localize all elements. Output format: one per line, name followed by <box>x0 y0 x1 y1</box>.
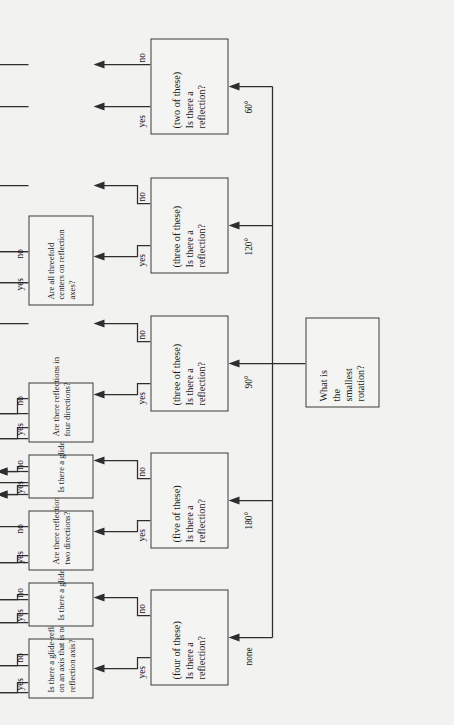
question-line-0: Are there reflections in <box>50 516 61 564</box>
reflection-q-line-1: Is there a <box>183 595 195 679</box>
reflection-q-line-2: reflection? <box>195 458 207 542</box>
reflection-count-label: (four of these) <box>170 595 182 679</box>
yes-label-threefold: yes <box>14 278 24 291</box>
reflection-q-line-1: Is there a <box>183 321 195 405</box>
reflection-q-line-2: reflection? <box>195 595 207 679</box>
question-reflections-two-directions: Are there reflections in two directions? <box>28 510 93 570</box>
flowchart-page: What is the smallest rotation? none 180°… <box>0 0 454 725</box>
yes-label-two-dirs: yes <box>14 551 24 564</box>
yes-label-four-dirs: yes <box>14 423 24 436</box>
flowchart-canvas: What is the smallest rotation? none 180°… <box>0 0 454 725</box>
start-line-0: What is <box>317 323 329 401</box>
branch-label-90: 90° <box>243 375 253 388</box>
yes-label-180: yes <box>136 529 146 542</box>
start-line-2: smallest <box>342 323 354 401</box>
no-label-none: no <box>136 604 146 613</box>
reflection-count-label: (three of these) <box>170 321 182 405</box>
reflection-question-180: (five of these) Is there a reflection? <box>150 452 228 548</box>
question-line-1: centers on reflection <box>55 221 66 299</box>
yes-label-glide-2: yes <box>14 481 24 494</box>
branch-label-60: 60° <box>243 100 253 113</box>
question-glide-reflection-1: Is there a glide-reflection? <box>28 582 93 626</box>
reflection-question-120: (three of these) Is there a reflection? <box>150 177 228 273</box>
branch-label-180: 180° <box>243 511 253 529</box>
no-label-glide-1: no <box>14 588 24 597</box>
yes-label-90: yes <box>136 392 146 405</box>
yes-label-60: yes <box>136 115 146 128</box>
no-label-180: no <box>136 467 146 476</box>
question-glide-not-reflection-axis: Is there a glide-reflection on an axis t… <box>28 638 93 698</box>
start-line-1: the <box>330 323 342 401</box>
question-line-1: four directions? <box>61 388 72 436</box>
no-label-120: no <box>136 192 146 201</box>
reflection-count-label: (five of these) <box>170 458 182 542</box>
reflection-count-label: (three of these) <box>170 183 182 267</box>
yes-label-glide-not-reflection: yes <box>14 678 24 691</box>
question-line-0: Is there a glide-reflection? <box>55 460 66 492</box>
reflection-q-line-2: reflection? <box>195 183 207 267</box>
question-reflections-four-directions: Are there reflections in four directions… <box>28 382 93 442</box>
reflection-q-line-2: reflection? <box>195 321 207 405</box>
yes-label-120: yes <box>136 254 146 267</box>
reflection-count-label: (two of these) <box>170 44 182 128</box>
start-box: What is the smallest rotation? <box>305 317 379 407</box>
reflection-q-line-1: Is there a <box>183 44 195 128</box>
no-label-two-dirs: no <box>14 524 24 533</box>
no-label-glide-not-reflection: no <box>14 653 24 662</box>
no-label-60: no <box>136 53 146 62</box>
question-line-2: reflection axis? <box>66 644 77 692</box>
reflection-q-line-1: Is there a <box>183 458 195 542</box>
question-line-2: axes? <box>66 221 77 299</box>
reflection-q-line-2: reflection? <box>195 44 207 128</box>
question-line-1: on an axis that is not a <box>55 644 66 692</box>
question-line-0: Is there a glide-reflection? <box>55 588 66 620</box>
question-line-0: Are there reflections in <box>50 388 61 436</box>
reflection-question-none: (four of these) Is there a reflection? <box>150 589 228 685</box>
reflection-question-60: (two of these) Is there a reflection? <box>150 38 228 134</box>
question-line-0: Is there a glide-reflection <box>45 644 56 692</box>
no-label-four-dirs: no <box>14 396 24 405</box>
question-glide-reflection-2: Is there a glide-reflection? <box>28 454 93 498</box>
question-line-1: two directions? <box>61 516 72 564</box>
yes-label-glide-1: yes <box>14 609 24 622</box>
no-label-glide-2: no <box>14 460 24 469</box>
no-label-threefold: no <box>14 249 24 258</box>
reflection-q-line-1: Is there a <box>183 183 195 267</box>
start-line-3: rotation? <box>354 323 366 401</box>
question-threefold-centers-on-axes: Are all threefold centers on reflection … <box>28 215 93 305</box>
reflection-question-90: (three of these) Is there a reflection? <box>150 315 228 411</box>
question-line-0: Are all threefold <box>45 221 56 299</box>
no-label-90: no <box>136 330 146 339</box>
branch-label-120: 120° <box>243 237 253 255</box>
branch-label-none: none <box>243 647 253 665</box>
yes-label-none: yes <box>136 666 146 679</box>
